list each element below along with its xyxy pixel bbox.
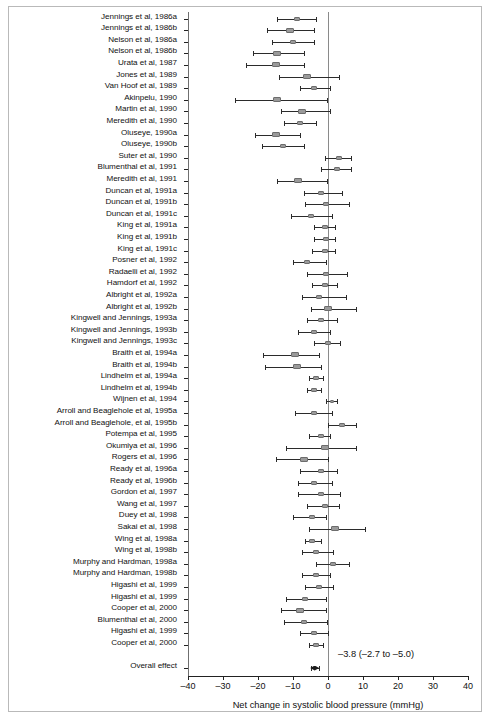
point-estimate-marker (313, 643, 319, 647)
ci-lower-cap (314, 237, 315, 242)
point-estimate-marker (325, 341, 331, 345)
forest-row (0, 512, 490, 523)
point-estimate-marker (308, 214, 314, 218)
ci-upper-cap (346, 295, 347, 300)
ci-lower-cap (314, 225, 315, 230)
point-estimate-marker (272, 132, 280, 137)
x-tick (433, 676, 434, 680)
forest-row (0, 211, 490, 222)
point-estimate-marker (280, 144, 286, 148)
ci-lower-cap (326, 399, 327, 404)
ci-lower-cap (286, 597, 287, 602)
x-tick-label: –20 (250, 681, 265, 691)
ci-upper-cap (316, 17, 317, 22)
overall-effect-row (0, 663, 490, 674)
x-tick-label: –40 (180, 681, 195, 691)
point-estimate-marker (311, 388, 317, 392)
ci-upper-cap (342, 191, 343, 196)
point-estimate-marker (294, 17, 300, 21)
ci-upper-cap (337, 469, 338, 474)
forest-row (0, 617, 490, 628)
ci-upper-cap (356, 307, 357, 312)
forest-row (0, 14, 490, 25)
point-estimate-marker (309, 539, 315, 543)
point-estimate-marker (323, 202, 329, 206)
point-estimate-marker (322, 249, 328, 253)
ci-upper-cap (328, 631, 329, 636)
ci-upper-cap (347, 272, 348, 277)
ci-lower-cap (325, 156, 326, 161)
forest-row (0, 420, 490, 431)
point-estimate-marker (334, 167, 340, 171)
ci-lower-cap (286, 446, 287, 451)
forest-row (0, 222, 490, 233)
forest-row (0, 536, 490, 547)
x-tick (293, 676, 294, 680)
ci-lower-cap (298, 492, 299, 497)
forest-row (0, 454, 490, 465)
ci-upper-cap (333, 585, 334, 590)
ci-lower-cap (293, 260, 294, 265)
point-estimate-marker (331, 526, 339, 531)
point-estimate-marker (336, 156, 342, 160)
point-estimate-marker (322, 504, 328, 508)
ci-lower-cap (235, 98, 236, 103)
point-estimate-marker (293, 364, 301, 369)
point-estimate-marker (313, 573, 319, 577)
forest-row (0, 280, 490, 291)
ci-lower-cap (328, 423, 329, 428)
forest-row (0, 257, 490, 268)
ci-lower-cap (255, 133, 256, 138)
ci-lower-cap (300, 469, 301, 474)
ci-upper-cap (327, 98, 328, 103)
ci-lower-cap (302, 550, 303, 555)
forest-row (0, 60, 490, 71)
point-estimate-marker (316, 295, 322, 299)
point-estimate-marker (322, 283, 328, 287)
x-tick (223, 676, 224, 680)
forest-row (0, 83, 490, 94)
ci-lower-cap (262, 144, 263, 149)
ci-upper-cap (356, 423, 357, 428)
forest-row (0, 118, 490, 129)
point-estimate-marker (301, 620, 307, 624)
ci-upper-cap (349, 202, 350, 207)
confidence-interval-line (311, 309, 357, 310)
point-estimate-marker (330, 562, 336, 566)
ci-upper-cap (337, 399, 338, 404)
point-estimate-marker (291, 352, 299, 357)
point-estimate-marker (272, 62, 280, 67)
plot-area: Jennings et al, 1986aJennings et al, 198… (0, 0, 490, 723)
point-estimate-marker (316, 585, 322, 589)
ci-lower-cap (291, 214, 292, 219)
forest-row (0, 478, 490, 489)
forest-row (0, 501, 490, 512)
forest-row (0, 373, 490, 384)
overall-effect-annotation: –3.8 (–2.7 to –5.0) (338, 649, 414, 659)
forest-row (0, 524, 490, 535)
ci-upper-cap (304, 144, 305, 149)
point-estimate-marker (273, 97, 281, 102)
ci-upper-cap (326, 515, 327, 520)
ci-upper-cap (326, 608, 327, 613)
ci-upper-cap (335, 237, 336, 242)
forest-row (0, 443, 490, 454)
forest-row (0, 234, 490, 245)
point-estimate-marker (318, 492, 324, 496)
ci-lower-cap (284, 620, 285, 625)
ci-upper-cap (321, 539, 322, 544)
ci-upper-cap (337, 318, 338, 323)
x-tick-label: 0 (325, 681, 330, 691)
point-estimate-marker (273, 51, 281, 56)
point-estimate-marker (318, 191, 324, 195)
ci-upper-cap (340, 492, 341, 497)
point-estimate-marker (318, 434, 324, 438)
ci-upper-cap (326, 260, 327, 265)
point-estimate-marker (309, 515, 315, 519)
ci-upper-cap (304, 51, 305, 56)
forest-row (0, 95, 490, 106)
ci-upper-cap (300, 133, 301, 138)
ci-lower-cap (307, 504, 308, 509)
forest-row (0, 640, 490, 651)
point-estimate-marker (321, 445, 329, 450)
